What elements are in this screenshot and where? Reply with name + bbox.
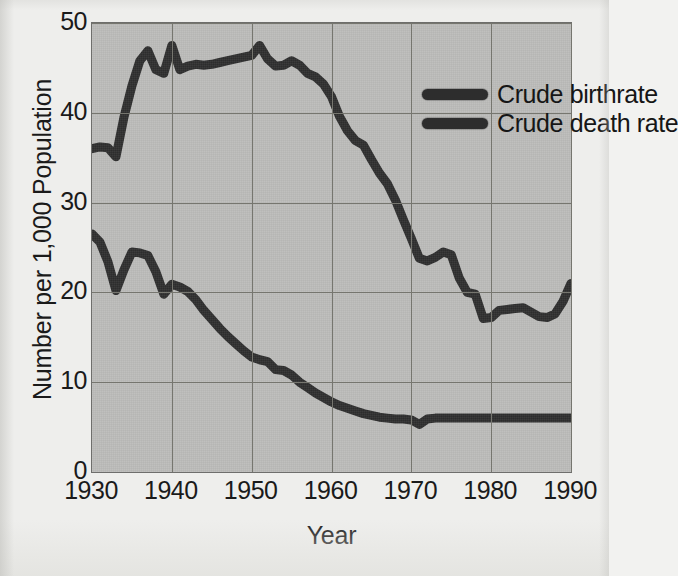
gridline-vertical-1970 [411,23,412,472]
plot-area: Crude birthrate Crude death rate [91,22,572,473]
gridline-vertical-1940 [172,23,173,472]
gridline-horizontal-10 [92,382,571,383]
gridline-vertical-1960 [332,23,333,472]
legend-label-crude-death-rate: Crude death rate [497,109,678,138]
x-axis-title: Year [91,521,572,550]
legend-swatch-icon-death-rate [422,118,488,129]
gridline-vertical-1950 [252,23,253,472]
gridline-horizontal-20 [92,292,571,293]
legend-swatch-icon-birthrate [422,89,488,100]
legend-label-crude-birthrate: Crude birthrate [497,80,658,109]
x-tick-label-1990: 1990 [520,478,620,503]
legend-item-crude-birthrate: Crude birthrate [422,80,672,109]
gridline-horizontal-50 [92,23,571,24]
gridline-horizontal-30 [92,203,571,204]
chart-legend: Crude birthrate Crude death rate [422,80,672,138]
y-axis-title: Number per 1,000 Population [28,5,57,475]
legend-item-crude-death-rate: Crude death rate [422,109,672,138]
